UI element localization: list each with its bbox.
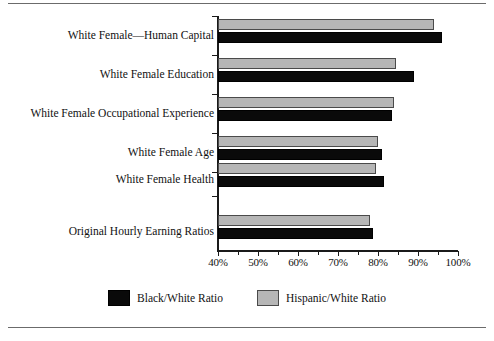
category-label-age: White Female Age xyxy=(4,146,214,158)
y-axis-tick xyxy=(212,94,217,95)
legend-label-hispanic: Hispanic/White Ratio xyxy=(286,292,386,304)
bar-black-education xyxy=(218,71,414,82)
y-axis-tick xyxy=(212,55,217,56)
bar-hispanic-age xyxy=(218,136,378,147)
legend-item-hispanic-white-ratio: Hispanic/White Ratio xyxy=(257,290,386,306)
category-label-original-hourly-earning-ratios: Original Hourly Earning Ratios xyxy=(4,225,214,237)
x-axis-tick-95 xyxy=(438,251,439,255)
y-axis-tick xyxy=(212,133,217,134)
bar-black-human-capital xyxy=(218,32,442,43)
chart-figure: 40% 50% 60% 70% 80% 90% 100% White Femal… xyxy=(0,0,494,341)
bar-hispanic-human-capital xyxy=(218,19,434,30)
bar-black-original-hourly xyxy=(218,228,373,239)
category-label-education: White Female Education xyxy=(4,68,214,80)
bar-hispanic-occupational-experience xyxy=(218,97,394,108)
x-axis-tick-55 xyxy=(278,251,279,255)
legend-swatch-hispanic xyxy=(257,290,279,306)
bar-black-health xyxy=(218,176,384,187)
bar-black-age xyxy=(218,149,382,160)
chart-legend: Black/White Ratio Hispanic/White Ratio xyxy=(0,290,494,306)
x-tick-label-100: 100% xyxy=(433,256,483,268)
category-label-occupational-experience: White Female Occupational Experience xyxy=(4,107,214,119)
legend-label-black: Black/White Ratio xyxy=(137,292,223,304)
bar-hispanic-health xyxy=(218,163,376,174)
y-axis-tick xyxy=(212,196,217,197)
bar-hispanic-education xyxy=(218,58,396,69)
legend-swatch-black xyxy=(108,290,130,306)
x-axis-tick-45 xyxy=(238,251,239,255)
y-axis-tick xyxy=(212,16,217,17)
category-label-human-capital: White Female—Human Capital xyxy=(4,29,214,41)
x-axis-tick-75 xyxy=(358,251,359,255)
legend-item-black-white-ratio: Black/White Ratio xyxy=(108,290,223,306)
category-label-health: White Female Health xyxy=(4,173,214,185)
x-axis-tick-65 xyxy=(318,251,319,255)
bar-hispanic-original-hourly xyxy=(218,215,370,226)
x-axis-tick-85 xyxy=(398,251,399,255)
bar-black-occupational-experience xyxy=(218,110,392,121)
